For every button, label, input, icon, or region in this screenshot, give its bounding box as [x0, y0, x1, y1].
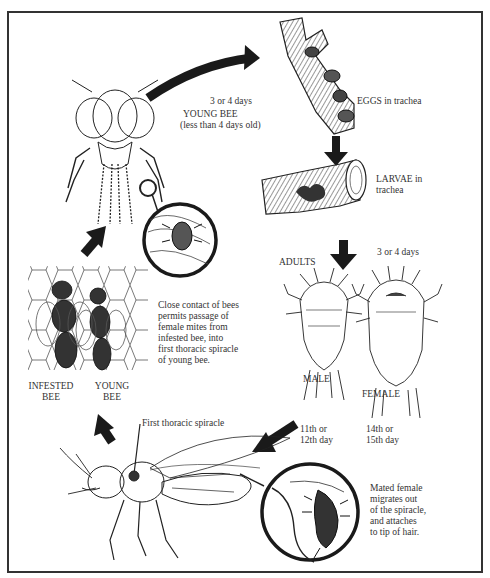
infested-bee-label-line1: INFESTED — [22, 381, 80, 392]
bees-on-honeycomb-illustration — [28, 266, 148, 370]
trachea-larvae-illustration — [262, 160, 366, 214]
female-timing-line1: 14th or — [366, 424, 399, 435]
male-timing-line2: 12th day — [300, 435, 333, 446]
male-timing-line1: 11th or — [300, 424, 333, 435]
arrow-eggs-to-larvae-icon — [324, 136, 348, 166]
arrow-larvae-to-adults-icon — [330, 240, 357, 270]
transfer-line-4: infested bee, into — [158, 333, 278, 344]
male-timing-label: 11th or 12th day — [300, 424, 333, 446]
transfer-description: Close contact of bees permits passage of… — [158, 300, 278, 366]
young-bee-contact-label-line1: YOUNG — [92, 381, 132, 392]
migration-line-4: and attaches — [370, 516, 426, 527]
migration-line-1: Mated female — [370, 483, 426, 494]
larvae-label-line1: LARVAE in — [376, 174, 422, 185]
young-bee-contact-label-line2: BEE — [92, 392, 132, 403]
spiracle-zoom-circle-illustration — [144, 194, 216, 276]
eggs-label: EGGS in trachea — [357, 96, 421, 107]
infested-bee-illustration — [60, 424, 290, 560]
migration-description: Mated female migrates out of the spiracl… — [370, 483, 426, 538]
young-bee-contact-label: YOUNG BEE — [92, 381, 132, 403]
male-label: MALE — [303, 374, 330, 385]
arrow-young-to-eggs-icon — [148, 45, 260, 98]
arrow-label-young-to-eggs: 3 or 4 days — [210, 96, 252, 107]
young-bee-head-illustration — [66, 80, 164, 224]
female-label: FEMALE — [362, 389, 400, 400]
transfer-line-6: of young bee. — [158, 355, 278, 366]
arrow-bee-to-contact-icon — [94, 414, 114, 442]
transfer-line-1: Close contact of bees — [158, 300, 278, 311]
infested-bee-label-line2: BEE — [22, 392, 80, 403]
migration-line-3: of the spiracle, — [370, 505, 426, 516]
migration-line-5: to tip of hair. — [370, 527, 426, 538]
larvae-label-line2: trachea — [376, 185, 403, 196]
trachea-eggs-illustration — [280, 18, 354, 134]
transfer-line-2: permits passage of — [158, 311, 278, 322]
adults-label: ADULTS — [279, 257, 316, 268]
female-timing-line2: 15th day — [366, 435, 399, 446]
young-bee-sublabel: (less than 4 days old) — [180, 120, 261, 131]
female-timing-label: 14th or 15th day — [366, 424, 399, 446]
migration-line-2: migrates out — [370, 494, 426, 505]
transfer-line-3: female mites from — [158, 322, 278, 333]
spiracle-label: First thoracic spiracle — [142, 418, 224, 429]
arrow-label-larvae-to-adults: 3 or 4 days — [377, 247, 419, 258]
infested-bee-label: INFESTED BEE — [22, 381, 80, 403]
transfer-line-5: first thoracic spiracle — [158, 344, 278, 355]
hair-tip-zoom-circle-illustration — [240, 464, 358, 562]
arrow-contact-to-young-bee-icon — [84, 226, 106, 254]
young-bee-label: YOUNG BEE — [183, 109, 238, 120]
